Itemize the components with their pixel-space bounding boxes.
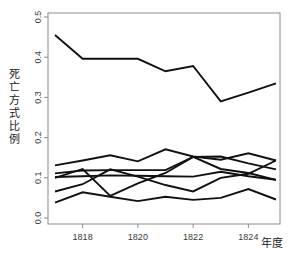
y-tick-label: 0.0 bbox=[33, 212, 43, 225]
y-tick-label: 0.2 bbox=[33, 131, 43, 144]
x-tick-label: 1820 bbox=[128, 232, 148, 242]
y-axis-title-char: 例 bbox=[9, 132, 20, 146]
x-axis-title: 年度 bbox=[261, 236, 283, 250]
x-axis-ticks bbox=[83, 224, 249, 228]
y-tick-label: 0.5 bbox=[33, 11, 43, 24]
series-group bbox=[55, 35, 276, 203]
y-axis-tick-labels: 0.00.10.20.30.40.5 bbox=[33, 11, 43, 225]
plot-svg: 0.00.10.20.30.40.5 1818182018221824 死亡方式… bbox=[0, 0, 296, 261]
y-tick-label: 0.1 bbox=[33, 172, 43, 185]
y-axis-title-char: 式 bbox=[9, 107, 20, 120]
y-axis-title-char: 亡 bbox=[9, 80, 20, 94]
x-axis-tick-labels: 1818182018221824 bbox=[73, 232, 259, 242]
y-tick-label: 0.3 bbox=[33, 91, 43, 104]
y-axis-title-char: 比 bbox=[9, 120, 20, 133]
line-series bbox=[55, 189, 276, 203]
x-tick-label: 1822 bbox=[183, 232, 203, 242]
y-axis-title: 死亡方式比例 bbox=[9, 68, 20, 146]
line-series bbox=[55, 35, 276, 101]
y-axis-title-char: 死 bbox=[9, 68, 20, 81]
y-axis-ticks bbox=[44, 17, 48, 218]
y-axis-title-char: 方 bbox=[9, 93, 20, 107]
y-tick-label: 0.4 bbox=[33, 51, 43, 64]
x-tick-label: 1824 bbox=[238, 232, 258, 242]
x-tick-label: 1818 bbox=[73, 232, 93, 242]
chart-figure: 0.00.10.20.30.40.5 1818182018221824 死亡方式… bbox=[0, 0, 296, 261]
